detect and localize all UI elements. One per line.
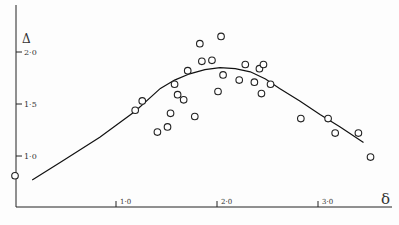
x-tick-label: 2·0 [221, 198, 232, 206]
x-tick-label: 1·0 [120, 198, 131, 206]
fitted-curve [32, 68, 363, 180]
data-point [258, 90, 265, 97]
y-axis-label: Δ [22, 32, 31, 46]
data-point [242, 61, 249, 68]
y-tick-label: 1·5 [24, 100, 37, 109]
data-point [197, 40, 204, 47]
data-point [171, 81, 178, 88]
data-point [215, 88, 222, 95]
x-ticks: 1·02·03·0 [116, 198, 333, 207]
data-point [164, 124, 171, 131]
data-point [12, 172, 19, 179]
y-tick-label: 1·0 [24, 152, 37, 161]
y-ticks: 1·01·52·0 [16, 48, 37, 161]
data-point [174, 91, 181, 98]
plot-area: 1·01·52·0 1·02·03·0 Δ δ [0, 0, 399, 225]
data-point [325, 115, 332, 122]
chart: 1·01·52·0 1·02·03·0 Δ δ [0, 0, 399, 225]
data-point [132, 107, 139, 114]
x-tick-label: 3·0 [322, 198, 333, 206]
data-point [236, 77, 243, 84]
data-point [218, 33, 225, 40]
data-point [220, 72, 227, 79]
data-point [355, 130, 362, 137]
data-point [184, 67, 191, 74]
data-point [180, 97, 187, 104]
data-point [199, 58, 206, 65]
data-point [139, 98, 146, 105]
data-point [191, 113, 198, 120]
data-point [332, 130, 339, 137]
x-axis-label: δ [381, 190, 390, 208]
data-point [260, 61, 267, 68]
data-point [167, 110, 174, 117]
data-point [298, 115, 305, 122]
data-points [12, 33, 374, 179]
data-point [267, 81, 274, 88]
data-point [209, 57, 216, 64]
data-point [367, 154, 374, 161]
y-tick-label: 2·0 [24, 48, 37, 57]
data-point [251, 79, 258, 86]
data-point [154, 129, 161, 136]
